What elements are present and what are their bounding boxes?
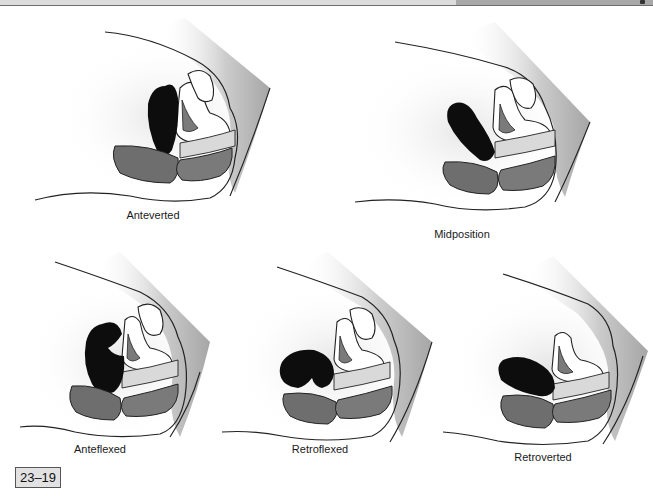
panel-retroverted: Retroverted <box>443 256 653 471</box>
panel-label-retroflexed: Retroflexed <box>292 443 348 455</box>
header-strip-right <box>456 0 653 5</box>
retroflexed-illustration <box>222 252 437 462</box>
retroverted-illustration <box>443 256 653 471</box>
panel-label-retroverted: Retroverted <box>514 451 571 463</box>
figure-number-badge: 23–19 <box>15 467 61 488</box>
panel-anteflexed: Anteflexed <box>20 252 220 462</box>
page-header-strip <box>0 0 653 6</box>
panel-retroflexed: Retroflexed <box>222 252 437 462</box>
anteflexed-illustration <box>20 252 220 462</box>
panel-label-anteverted: Anteverted <box>126 209 179 221</box>
panel-label-midposition: Midposition <box>434 228 490 240</box>
panel-label-anteflexed: Anteflexed <box>74 443 126 455</box>
header-strip-left <box>0 0 456 5</box>
header-mark-icon <box>640 0 645 4</box>
midposition-illustration <box>355 22 585 247</box>
panel-midposition: Midposition <box>355 22 585 247</box>
panel-anteverted: Anteverted <box>20 18 300 208</box>
anteverted-illustration <box>20 18 300 208</box>
